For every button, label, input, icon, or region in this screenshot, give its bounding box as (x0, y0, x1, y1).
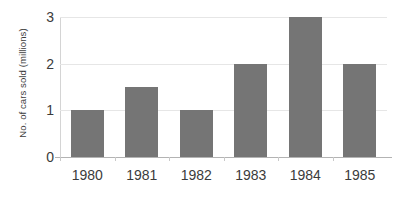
x-label-1985: 1985 (333, 164, 388, 188)
bar-1984[interactable] (289, 17, 322, 157)
x-tick (60, 157, 61, 161)
bar-slot (224, 17, 279, 157)
x-tick-slot (169, 157, 224, 162)
bar-slot (60, 17, 115, 157)
bar-slot (278, 17, 333, 157)
bar-1982[interactable] (180, 110, 213, 157)
x-tick-slot (224, 157, 279, 162)
bar-chart: No. of cars sold (millions) 3 2 1 0 1980 (0, 0, 407, 200)
x-label-1980: 1980 (60, 164, 115, 188)
x-tick (278, 157, 279, 161)
x-label-1984: 1984 (278, 164, 333, 188)
x-tick-slot (278, 157, 333, 162)
y-tick-label: 1 (30, 103, 54, 117)
plot-area (60, 17, 387, 157)
bar-slot (115, 17, 170, 157)
bar-slot (333, 17, 388, 157)
y-axis-tick-labels: 3 2 1 0 (30, 0, 54, 200)
x-tick (169, 157, 170, 161)
x-tick (333, 157, 334, 161)
bar-1980[interactable] (71, 110, 104, 157)
x-tick (115, 157, 116, 161)
x-tick-slot (115, 157, 170, 162)
x-label-1981: 1981 (115, 164, 170, 188)
y-tick-label: 2 (30, 57, 54, 71)
bar-1983[interactable] (234, 64, 267, 157)
x-label-1983: 1983 (224, 164, 279, 188)
x-label-1982: 1982 (169, 164, 224, 188)
x-tick-slot (333, 157, 388, 162)
bar-1981[interactable] (125, 87, 158, 157)
y-tick-label: 3 (30, 10, 54, 24)
x-axis-ticks (60, 157, 387, 162)
x-axis-labels: 1980 1981 1982 1983 1984 1985 (60, 164, 387, 188)
y-tick-label: 0 (30, 150, 54, 164)
bar-slot (169, 17, 224, 157)
bar-1985[interactable] (343, 64, 376, 157)
x-tick (224, 157, 225, 161)
bar-series (60, 17, 387, 157)
x-tick-slot (60, 157, 115, 162)
